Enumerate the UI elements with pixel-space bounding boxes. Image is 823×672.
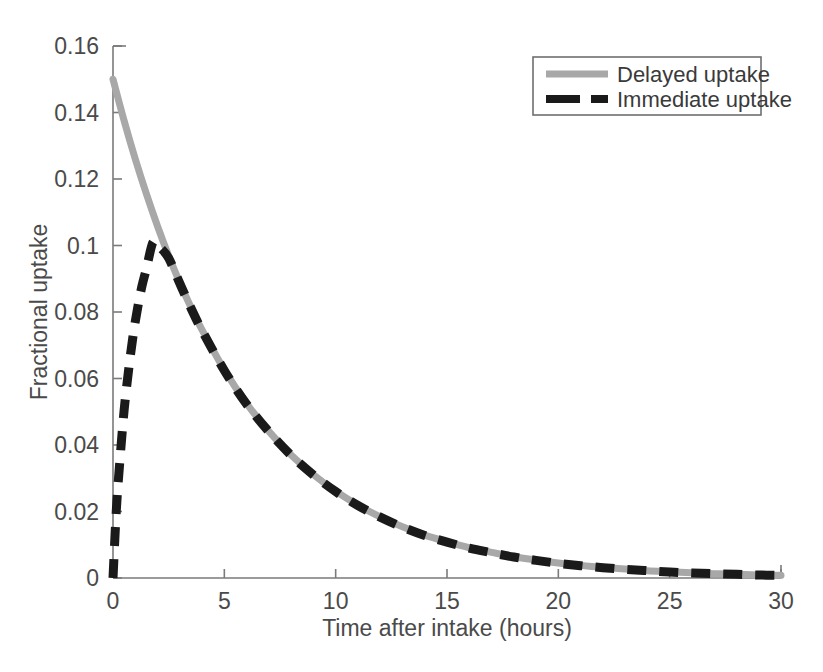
x-axis-title: Time after intake (hours) — [322, 615, 572, 641]
x-tick-label: 30 — [768, 588, 794, 614]
y-tick-label: 0.06 — [54, 366, 99, 392]
series-line-2 — [113, 241, 781, 578]
chart-figure: 00.020.040.060.080.10.120.140.1605101520… — [0, 0, 823, 672]
y-axis-title: Fractional uptake — [26, 224, 52, 400]
x-tick-label: 0 — [107, 588, 120, 614]
legend-label-1: Delayed uptake — [617, 62, 770, 87]
line-chart: 00.020.040.060.080.10.120.140.1605101520… — [0, 0, 823, 672]
y-tick-label: 0.02 — [54, 499, 99, 525]
y-tick-label: 0 — [86, 565, 99, 591]
series-line-1 — [113, 79, 781, 575]
y-tick-label: 0.08 — [54, 299, 99, 325]
x-tick-label: 25 — [657, 588, 683, 614]
y-tick-label: 0.04 — [54, 432, 99, 458]
x-tick-label: 15 — [434, 588, 460, 614]
y-tick-label: 0.12 — [54, 166, 99, 192]
axes — [113, 46, 781, 578]
chart-legend: Delayed uptakeImmediate uptake — [533, 57, 792, 115]
y-tick-label: 0.16 — [54, 33, 99, 59]
y-tick-label: 0.14 — [54, 100, 99, 126]
tick-labels: 00.020.040.060.080.10.120.140.1605101520… — [54, 33, 794, 614]
y-tick-label: 0.1 — [67, 233, 99, 259]
data-series — [113, 79, 781, 578]
x-tick-label: 20 — [546, 588, 572, 614]
x-tick-label: 5 — [218, 588, 231, 614]
x-tick-label: 10 — [323, 588, 349, 614]
legend-label-2: Immediate uptake — [617, 87, 792, 112]
